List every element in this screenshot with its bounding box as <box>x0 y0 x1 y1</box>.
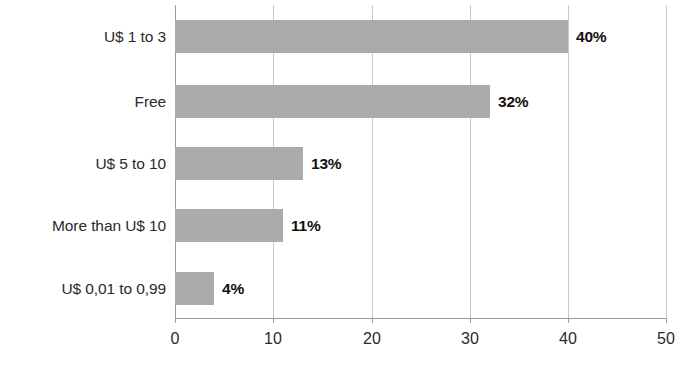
category-label-us-1-to-3: U$ 1 to 3 <box>1 20 166 53</box>
x-tick-0 <box>175 318 176 323</box>
gridline-40 <box>568 5 569 318</box>
bar-value-label: 13% <box>311 147 341 180</box>
bar-value-label: 4% <box>222 272 244 305</box>
category-label-us-001-to-099: U$ 0,01 to 0,99 <box>1 272 166 305</box>
x-tick-label-40: 40 <box>559 330 577 348</box>
x-tick-label-50: 50 <box>657 330 675 348</box>
x-tick-label-20: 20 <box>363 330 381 348</box>
category-label-more-than-us-10: More than U$ 10 <box>1 209 166 242</box>
category-label-us-5-to-10: U$ 5 to 10 <box>1 147 166 180</box>
x-axis-line <box>175 318 667 319</box>
x-tick-50 <box>666 318 667 323</box>
category-label-free: Free <box>1 85 166 118</box>
bar-free <box>175 85 490 118</box>
x-tick-40 <box>568 318 569 323</box>
x-tick-label-10: 10 <box>264 330 282 348</box>
bar-value-label: 11% <box>291 209 321 242</box>
bar-us-001-to-099 <box>175 272 214 305</box>
bar-more-than-us-10 <box>175 209 283 242</box>
plot-area: 40% 32% 13% 11% 4% <box>175 5 667 318</box>
bar-us-5-to-10 <box>175 147 303 180</box>
x-tick-label-0: 0 <box>171 330 180 348</box>
y-axis-labels: U$ 1 to 3 Free U$ 5 to 10 More than U$ 1… <box>0 5 166 318</box>
bar-chart: 40% 32% 13% 11% 4% U$ 1 to 3 Free U$ 5 t… <box>0 0 684 365</box>
x-axis-tick-labels: 0 10 20 30 40 50 <box>0 330 684 360</box>
bar-us-1-to-3 <box>175 20 568 53</box>
x-tick-20 <box>372 318 373 323</box>
gridline-50 <box>666 5 667 318</box>
x-tick-label-30: 30 <box>461 330 479 348</box>
bar-value-label: 40% <box>576 20 606 53</box>
x-tick-10 <box>273 318 274 323</box>
x-tick-30 <box>470 318 471 323</box>
bar-value-label: 32% <box>498 85 528 118</box>
